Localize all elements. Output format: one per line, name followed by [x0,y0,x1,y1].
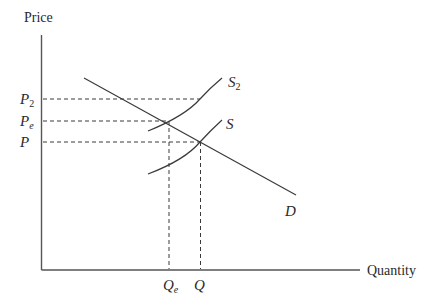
pe-label: Pe [19,113,34,131]
supply-curve-s2 [148,78,222,131]
demand-curve [84,78,296,195]
s-label: S [226,116,234,132]
d-label: D [284,203,296,219]
qe-label: Qe [163,277,179,295]
p-label: P [19,134,29,150]
q-label: Q [194,277,205,293]
quantity-axis-label: Quantity [367,263,416,278]
supply-curve-s [148,120,222,174]
p2-label: P2 [19,91,34,109]
supply-demand-diagram: Price Quantity P2 Pe P S2 S D Qe Q [0,0,434,306]
price-axis-label: Price [24,10,53,25]
s2-label: S2 [228,74,241,92]
